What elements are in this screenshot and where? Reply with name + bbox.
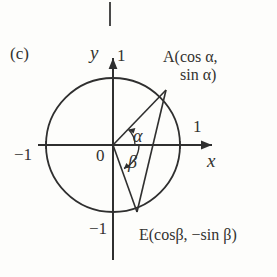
- x-axis-label: x: [207, 150, 215, 171]
- x-axis-arrowhead: [201, 141, 212, 150]
- angle-label-beta: β: [128, 152, 137, 172]
- segment-a-to-e: [137, 90, 166, 212]
- y-axis-label: y: [90, 42, 98, 63]
- y-axis-tick-label-one: 1: [117, 46, 126, 65]
- trigonometry-unit-circle-figure: (c) y x 1 −1 1 −1 0 α β A(cos α, sin α) …: [0, 0, 277, 277]
- angle-label-alpha: α: [133, 126, 142, 146]
- point-e-label: E(cosβ, −sin β): [139, 226, 237, 244]
- origin-label: 0: [96, 146, 105, 165]
- point-a-label-line2: sin α): [163, 66, 218, 84]
- point-a-label: A(cos α, sin α): [163, 48, 218, 84]
- y-axis-tick-label-negative-one: −1: [89, 219, 107, 238]
- panel-label: (c): [10, 44, 29, 63]
- x-axis-tick-label-negative-one: −1: [14, 145, 32, 164]
- x-axis-tick-label-one: 1: [193, 117, 202, 136]
- point-a-label-line1: A(cos α,: [163, 48, 218, 65]
